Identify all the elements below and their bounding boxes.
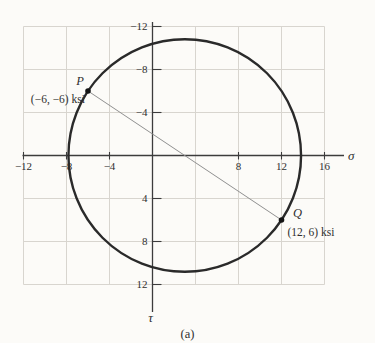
point-label-Q: Q (293, 206, 302, 220)
tau-axis-label: τ (148, 310, 154, 325)
sigma-tick-label: −4 (104, 160, 116, 172)
tau-tick-label: −8 (136, 63, 148, 75)
sigma-tick-label: 16 (319, 160, 331, 172)
point-label-P: P (75, 74, 84, 88)
tau-tick-label: 4 (142, 192, 148, 204)
sigma-tick-label: −8 (61, 160, 73, 172)
sigma-axis-label: σ (348, 148, 355, 163)
tau-tick-label: −12 (130, 20, 147, 32)
point-annotation-P: (−6, −6) ksi (31, 93, 85, 106)
mohr-circle-plot: στ−12−8−481216−12−8−44812P(−6, −6) ksiQ(… (0, 0, 375, 343)
sigma-tick-label: 8 (236, 160, 242, 172)
point-annotation-Q: (12, 6) ksi (288, 226, 335, 239)
tau-tick-label: 8 (142, 235, 148, 247)
mohr-circle-figure: στ−12−8−481216−12−8−44812P(−6, −6) ksiQ(… (0, 0, 375, 343)
sigma-tick-label: −12 (15, 160, 32, 172)
tau-tick-label: 12 (137, 278, 148, 290)
figure-caption: (a) (0, 327, 375, 342)
sigma-tick-label: 12 (276, 160, 287, 172)
point-P (85, 88, 91, 94)
tau-tick-label: −4 (136, 106, 148, 118)
point-Q (279, 217, 285, 223)
